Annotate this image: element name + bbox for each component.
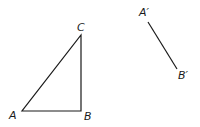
vertex-label-b-prime: B′: [178, 69, 189, 82]
vertex-label-a-prime: A′: [138, 6, 150, 19]
vertex-label-a: A: [8, 109, 17, 122]
triangle-abc: [22, 35, 81, 111]
geometry-diagram: A B C A′ B′: [0, 0, 200, 127]
vertex-label-b: B: [84, 110, 92, 123]
segment-a-prime-b-prime: [148, 22, 177, 69]
vertex-label-c: C: [77, 21, 85, 34]
